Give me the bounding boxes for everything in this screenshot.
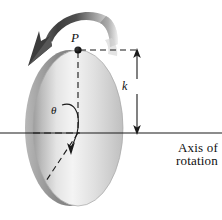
dimension-k <box>133 48 141 135</box>
point-marker <box>74 46 81 53</box>
axis-of-rotation-label: Axis of rotation <box>148 141 218 167</box>
diagram-canvas <box>0 0 222 220</box>
angle-label: θ <box>51 105 56 116</box>
distance-label: k <box>122 80 127 92</box>
axis-label-line-2: rotation <box>148 154 218 167</box>
rotating-disk-diagram: P k θ Axis of rotation <box>0 0 222 220</box>
disk <box>25 50 123 206</box>
point-label: P <box>71 31 79 44</box>
